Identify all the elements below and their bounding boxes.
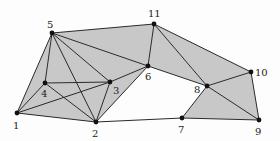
node-9 [257,118,262,123]
node-label-6: 6 [145,71,151,82]
simplicial-complex-diagram: 1234567891011 [0,0,280,141]
node-label-7: 7 [178,124,184,135]
node-label-8: 8 [194,84,200,95]
node-label-9: 9 [255,126,261,137]
node-7 [180,116,185,121]
node-2 [94,120,99,125]
shaded-faces [17,24,259,122]
node-11 [152,22,157,27]
node-6 [146,64,151,69]
node-label-5: 5 [47,19,53,30]
node-label-2: 2 [92,128,98,139]
node-label-11: 11 [148,8,161,19]
node-label-10: 10 [255,67,268,78]
node-label-3: 3 [113,85,119,96]
node-5 [50,31,55,36]
node-10 [249,70,254,75]
graph-canvas: 1234567891011 [0,0,280,141]
node-4 [43,81,48,86]
node-label-1: 1 [13,120,19,131]
node-1 [15,111,20,116]
edge-2-7 [96,118,182,122]
node-8 [205,84,210,89]
node-3 [108,80,113,85]
node-label-4: 4 [41,88,47,99]
